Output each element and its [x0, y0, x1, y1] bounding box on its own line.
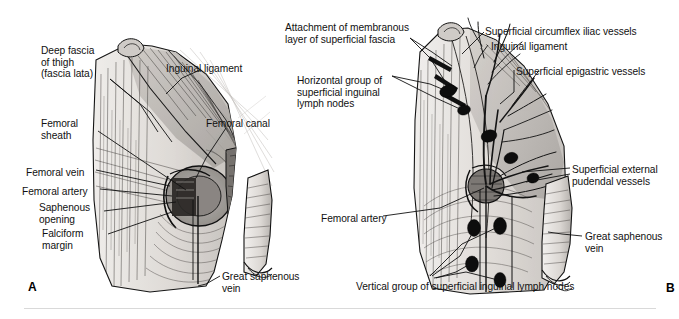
great-saphenous-vein-art-b: [542, 176, 572, 291]
saphenous-opening-art: [164, 166, 232, 228]
label-great-saphenous-vein-a: Great saphenous vein: [222, 271, 299, 294]
superficial-external-pudendal-vessel-branches: [490, 152, 556, 196]
label-falciform-margin: Falciform margin: [42, 228, 83, 251]
label-attachment-of-membranous-layer: Attachment of membranous layer of superf…: [285, 22, 409, 45]
thigh-fascia-body: [93, 44, 236, 292]
label-inguinal-ligament-a: Inguinal ligament: [166, 63, 242, 75]
label-superficial-external-pudendal-vessels: Superficial external pudendal vessels: [572, 164, 658, 187]
footer-rule: [24, 308, 656, 309]
lymph-node-vertical-2: [494, 218, 507, 235]
saphenous-opening-region-b: [466, 165, 506, 212]
lymph-node-horizontal-2: [456, 104, 471, 117]
label-deep-fascia-of-thigh: Deep fascia of thigh (fascia lata): [41, 45, 94, 80]
label-great-saphenous-vein-b: Great saphenous vein: [585, 231, 662, 254]
panel-a-shading: [95, 46, 248, 288]
panel-a-leader-lines: [96, 70, 226, 286]
label-femoral-vein: Femoral vein: [26, 167, 84, 179]
femoral-vessel-trunks: [484, 96, 504, 188]
lymph-node-vertical-1: [468, 220, 481, 237]
panel-a-letter: A: [28, 280, 37, 294]
label-femoral-canal: Femoral canal: [206, 118, 270, 130]
lymph-node-horizontal-5: [526, 172, 540, 185]
lymph-nodes: [438, 83, 540, 288]
lymph-node-horizontal-4: [503, 151, 519, 165]
label-femoral-sheath: Femoral sheath: [41, 118, 78, 141]
label-superficial-epigastric-vessels: Superficial epigastric vessels: [516, 66, 645, 78]
superficial-epigastric-vessel-branches: [500, 72, 554, 142]
lymph-node-horizontal-3: [480, 128, 499, 144]
membranous-layer-attachment-dashes: [428, 56, 466, 108]
label-horizontal-group-lymph-nodes: Horizontal group of superficial inguinal…: [297, 75, 382, 110]
panel-b-letter: B: [666, 281, 675, 295]
lymph-node-vertical-3: [466, 256, 479, 272]
lymph-node-horizontal-1: [438, 83, 458, 100]
label-femoral-artery-b: Femoral artery: [321, 213, 387, 225]
label-femoral-artery: Femoral artery: [22, 186, 88, 198]
great-saphenous-vein-art: [244, 170, 272, 277]
anatomy-figure: A: [0, 0, 679, 319]
label-vertical-group-lymph-nodes: Vertical group of superficial inguinal l…: [356, 281, 574, 293]
label-superficial-circumflex-iliac-vessels: Superficial circumflex iliac vessels: [485, 26, 637, 38]
label-saphenous-opening: Saphenous opening: [39, 202, 90, 225]
label-inguinal-ligament-b: Inguinal ligament: [491, 41, 567, 53]
